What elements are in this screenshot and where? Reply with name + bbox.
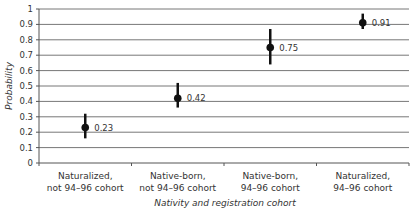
y-axis-title: Probability	[4, 61, 14, 110]
y-tick-label: 1	[28, 4, 33, 14]
y-tick-label: 0.8	[19, 35, 33, 45]
data-point: 0.23	[81, 114, 113, 139]
y-tick-label: 0	[28, 158, 33, 168]
x-category-label: not 94–96 cohort	[139, 183, 216, 193]
y-tick-label: 0.3	[19, 112, 33, 122]
value-label: 0.91	[372, 18, 391, 28]
x-axis-title: Nativity and registration cohort	[154, 198, 296, 208]
y-tick-label: 0.5	[19, 81, 33, 91]
x-category-label: Naturalized,	[335, 171, 390, 181]
data-points: 0.230.420.750.91	[81, 14, 390, 139]
y-axis: 00.10.20.30.40.50.60.70.80.91	[19, 4, 39, 168]
point-marker	[81, 124, 89, 132]
data-point: 0.91	[359, 14, 391, 29]
value-label: 0.42	[187, 93, 206, 103]
x-category-label: Native-born,	[242, 171, 298, 181]
x-category-label: Naturalized,	[58, 171, 113, 181]
point-marker	[359, 19, 367, 27]
x-axis: Naturalized,not 94–96 cohortNative-born,…	[39, 163, 409, 193]
y-tick-label: 0.7	[19, 50, 33, 60]
point-marker	[266, 44, 274, 52]
y-tick-label: 0.1	[19, 143, 33, 153]
x-category-label: not 94–96 cohort	[47, 183, 124, 193]
probability-chart: 00.10.20.30.40.50.60.70.80.91 Naturalize…	[0, 0, 413, 210]
value-label: 0.23	[94, 123, 113, 133]
value-label: 0.75	[279, 43, 298, 53]
x-category-label: Native-born,	[150, 171, 206, 181]
y-tick-label: 0.9	[19, 19, 33, 29]
y-tick-label: 0.6	[19, 66, 33, 76]
data-point: 0.75	[266, 29, 298, 64]
y-tick-label: 0.2	[19, 127, 33, 137]
x-category-label: 94–96 cohort	[241, 183, 301, 193]
data-point: 0.42	[174, 83, 206, 108]
y-tick-label: 0.4	[19, 96, 33, 106]
point-marker	[174, 95, 182, 103]
x-category-label: 94–96 cohort	[333, 183, 393, 193]
